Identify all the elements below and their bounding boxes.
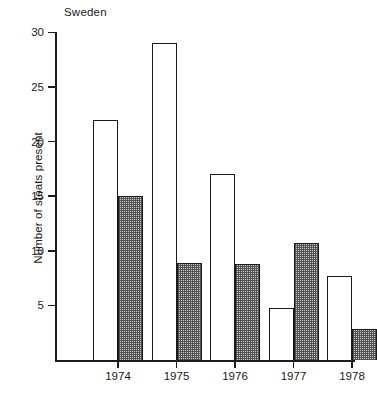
y-tick-label-25: 25 [31,81,44,93]
bar-open-1974 [93,120,118,360]
bar-open-1977 [269,308,294,360]
x-tick-1977 [293,362,295,368]
x-tick-label-1978: 1978 [327,370,377,382]
x-tick-label-1974: 1974 [93,370,143,382]
chart-title: Sweden [64,6,107,18]
y-tick-label-20: 20 [31,135,44,147]
x-tick-label-1975: 1975 [152,370,202,382]
x-tick-1976 [234,362,236,368]
y-tick-30: 30 [48,32,55,34]
bar-open-1975 [152,43,177,360]
y-tick-label-10: 10 [31,245,44,257]
y-tick-label-5: 5 [38,299,44,311]
y-tick-15: 15 [48,195,55,197]
y-tick-20: 20 [48,141,55,143]
bar-hatched-1975 [177,263,202,360]
y-tick-25: 25 [48,86,55,88]
x-tick-label-1977: 1977 [269,370,319,382]
y-tick-10: 10 [48,250,55,252]
y-tick-label-15: 15 [31,190,44,202]
y-tick-5: 5 [48,305,55,307]
bar-hatched-1976 [235,264,260,360]
bar-hatched-1977 [294,243,319,360]
bar-open-1978 [327,276,352,360]
bar-hatched-1974 [118,196,143,360]
x-tick-1978 [351,362,353,368]
y-tick-label-30: 30 [31,26,44,38]
bar-hatched-1978 [352,329,377,360]
bar-open-1976 [210,174,235,360]
x-axis-line [55,360,355,362]
y-axis-line [55,32,57,362]
x-tick-label-1976: 1976 [210,370,260,382]
x-tick-1975 [176,362,178,368]
x-tick-1974 [117,362,119,368]
